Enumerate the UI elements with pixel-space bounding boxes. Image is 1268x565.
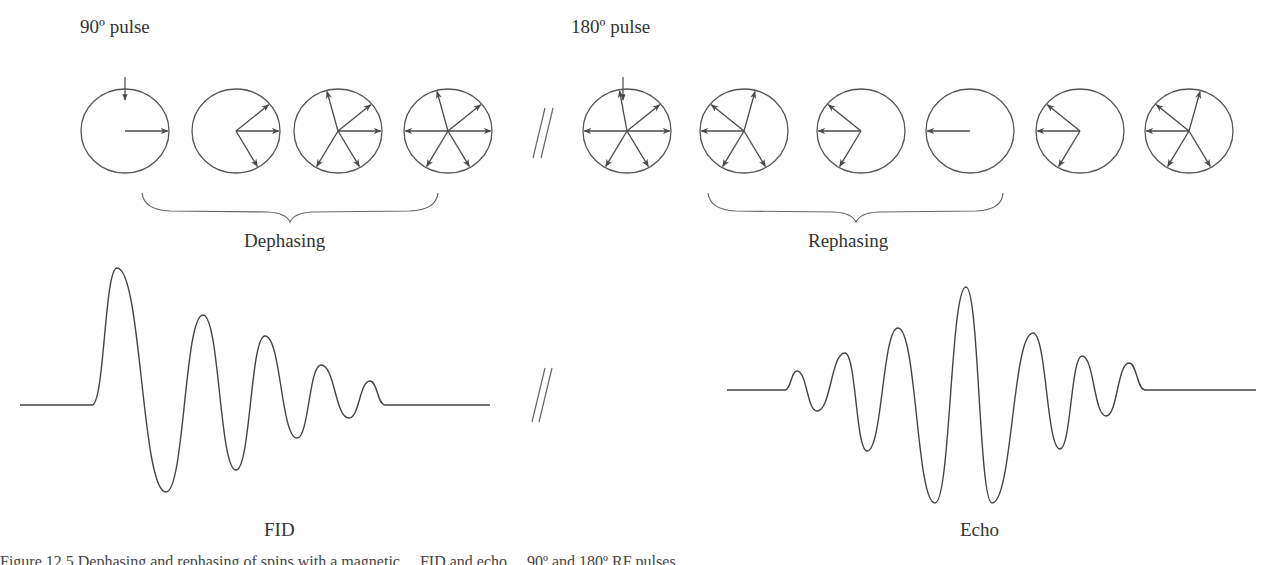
magnetization-vector-icon xyxy=(627,131,648,166)
spin-circles xyxy=(81,89,1233,173)
fid-waveform xyxy=(20,268,490,492)
diagram-canvas xyxy=(0,0,1268,565)
magnetization-vector-icon xyxy=(427,131,448,166)
spin-circle-c9 xyxy=(1036,89,1124,173)
magnetization-vector-icon xyxy=(711,105,744,131)
magnetization-vector-icon xyxy=(448,131,469,166)
magnetization-vector-icon xyxy=(1168,131,1189,166)
magnetization-vector-icon xyxy=(236,131,257,166)
magnetization-vector-icon xyxy=(840,131,861,166)
magnetization-vector-icon xyxy=(1059,131,1080,166)
time-break-mark-bottom xyxy=(532,368,552,422)
echo-label: Echo xyxy=(960,519,999,541)
magnetization-vector-icon xyxy=(828,105,861,131)
magnetization-vector-icon xyxy=(327,92,338,131)
fid-label: FID xyxy=(264,519,295,541)
spin-circle-c4 xyxy=(404,89,492,173)
magnetization-vector-icon xyxy=(236,105,269,131)
magnetization-vector-icon xyxy=(627,105,660,131)
magnetization-vector-icon xyxy=(1047,105,1080,131)
rephasing-label: Rephasing xyxy=(808,230,888,252)
pulse180-label: 180º pulse xyxy=(571,16,650,38)
echo-waveform xyxy=(727,287,1256,503)
rephasing-brace xyxy=(708,193,1003,222)
magnetization-vector-icon xyxy=(744,92,755,131)
time-break-mark-top xyxy=(533,108,553,158)
magnetization-vector-icon xyxy=(1189,92,1200,131)
dephasing-brace xyxy=(142,193,438,222)
spin-circle-c2 xyxy=(192,89,280,173)
magnetization-vector-icon xyxy=(437,92,448,131)
pulse90-label: 90º pulse xyxy=(80,16,150,38)
dephasing-label: Dephasing xyxy=(244,230,325,252)
spin-circle-c1 xyxy=(81,89,169,173)
spin-circle-c10 xyxy=(1145,89,1233,173)
magnetization-vector-icon xyxy=(448,105,481,131)
magnetization-vector-icon xyxy=(338,131,359,166)
magnetization-vector-icon xyxy=(606,131,627,166)
spin-circle-c8 xyxy=(926,89,1014,173)
spin-circle-c5 xyxy=(583,89,671,173)
spin-echo-diagram: 90º pulse 180º pulse Dephasing Rephasing… xyxy=(0,0,1268,565)
magnetization-vector-icon xyxy=(338,105,371,131)
magnetization-vector-icon xyxy=(723,131,744,166)
spin-circle-c6 xyxy=(700,89,788,173)
magnetization-vector-icon xyxy=(1156,105,1189,131)
figure-caption-clipped: Figure 12.5 Dephasing and rephasing of s… xyxy=(0,553,1268,565)
magnetization-vector-icon xyxy=(1189,131,1210,166)
magnetization-vector-icon xyxy=(317,131,338,166)
spin-circle-c7 xyxy=(817,89,905,173)
magnetization-vector-icon xyxy=(744,131,765,166)
spin-circle-c3 xyxy=(294,89,382,173)
